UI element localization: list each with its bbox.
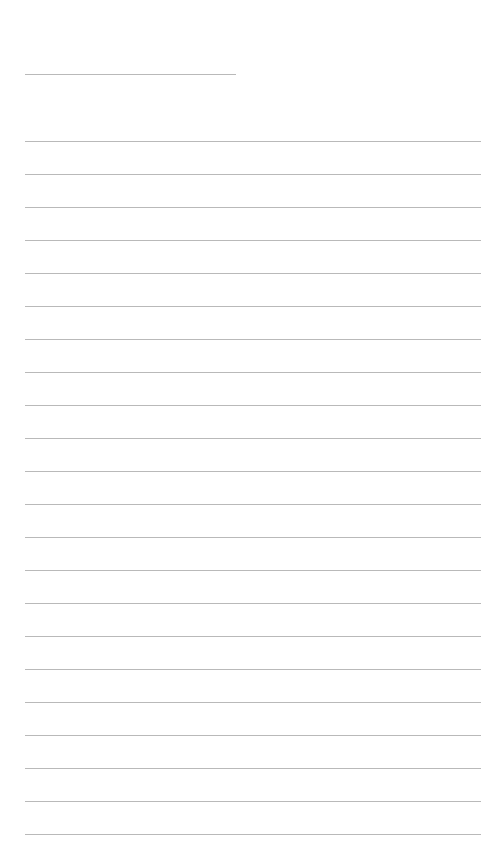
- ruled-line: [25, 141, 481, 142]
- ruled-line: [25, 240, 481, 241]
- ruled-line: [25, 834, 481, 835]
- ruled-line: [25, 273, 481, 274]
- ruled-line: [25, 570, 481, 571]
- ruled-line: [25, 504, 481, 505]
- ruled-line: [25, 405, 481, 406]
- ruled-line: [25, 735, 481, 736]
- ruled-line: [25, 372, 481, 373]
- ruled-line: [25, 339, 481, 340]
- ruled-line: [25, 174, 481, 175]
- ruled-line: [25, 471, 481, 472]
- ruled-line: [25, 801, 481, 802]
- ruled-line: [25, 603, 481, 604]
- ruled-line: [25, 207, 481, 208]
- ruled-line: [25, 306, 481, 307]
- ruled-line: [25, 537, 481, 538]
- ruled-line: [25, 768, 481, 769]
- lined-paper-page: [0, 0, 498, 865]
- ruled-line: [25, 702, 481, 703]
- ruled-line: [25, 438, 481, 439]
- ruled-line: [25, 636, 481, 637]
- ruled-lines: [25, 0, 481, 865]
- ruled-line: [25, 669, 481, 670]
